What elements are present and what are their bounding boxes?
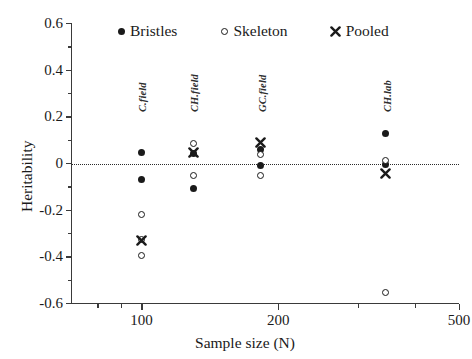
data-point-filled-circle — [138, 176, 145, 183]
x-tick-label: 100 — [111, 313, 171, 328]
y-minor-tick-mark — [68, 93, 71, 94]
x-axis-line — [71, 303, 459, 304]
x-minor-tick-mark — [415, 304, 416, 308]
data-point-filled-circle — [382, 130, 389, 137]
y-tick-mark — [66, 163, 71, 164]
x-minor-tick-mark — [97, 304, 98, 308]
group-annotation-label: GC.field — [257, 75, 268, 112]
y-tick-mark — [66, 116, 71, 117]
y-tick-label: 0.2 — [5, 109, 63, 124]
chart-legend: Bristles Skeleton Pooled — [118, 22, 389, 40]
x-tick-mark — [141, 304, 142, 310]
legend-label-pooled: Pooled — [346, 22, 389, 40]
legend-label-skeleton: Skeleton — [233, 22, 287, 40]
y-minor-tick-mark — [68, 280, 71, 281]
data-point-filled-circle — [257, 162, 264, 169]
data-point-cross-x — [255, 137, 266, 148]
y-tick-mark — [66, 23, 71, 24]
data-point-open-circle — [257, 172, 264, 179]
x-axis-title: Sample size (N) — [165, 334, 325, 352]
scatter-plot-figure: Heritability Sample size (N) -0.6-0.4-0.… — [0, 0, 472, 359]
legend-item-pooled: Pooled — [330, 22, 389, 40]
x-tick-label: 200 — [248, 313, 308, 328]
x-tick-mark — [278, 304, 279, 310]
y-tick-label: 0.6 — [5, 16, 63, 31]
y-tick-mark — [66, 210, 71, 211]
x-minor-tick-mark — [358, 304, 359, 308]
open-circle-icon — [221, 28, 228, 35]
cross-x-icon — [330, 26, 341, 37]
y-minor-tick-mark — [68, 140, 71, 141]
data-point-open-circle — [138, 252, 145, 259]
filled-circle-icon — [118, 28, 125, 35]
data-point-open-circle — [257, 151, 264, 158]
data-point-filled-circle — [138, 149, 145, 156]
legend-item-bristles: Bristles — [118, 22, 177, 40]
x-minor-tick-mark — [121, 304, 122, 308]
y-tick-label: -0.6 — [5, 296, 63, 311]
data-point-cross-x — [188, 147, 199, 158]
data-point-open-circle — [138, 211, 145, 218]
zero-reference-line — [72, 164, 459, 165]
y-tick-mark — [66, 303, 71, 304]
legend-item-skeleton: Skeleton — [221, 22, 287, 40]
data-point-open-circle — [382, 289, 389, 296]
y-tick-mark — [66, 70, 71, 71]
y-tick-label: 0.4 — [5, 63, 63, 78]
y-minor-tick-mark — [68, 46, 71, 47]
y-minor-tick-mark — [68, 186, 71, 187]
y-minor-tick-mark — [68, 233, 71, 234]
y-tick-label: 0 — [5, 156, 63, 171]
y-axis-title: Heritability — [18, 141, 36, 212]
y-tick-label: -0.2 — [5, 203, 63, 218]
y-tick-label: -0.4 — [5, 249, 63, 264]
data-point-filled-circle — [190, 185, 197, 192]
group-annotation-label: CH.lab — [382, 80, 393, 112]
data-point-open-circle — [190, 172, 197, 179]
x-tick-label: 500 — [429, 313, 472, 328]
data-point-cross-x — [380, 168, 391, 179]
legend-label-bristles: Bristles — [130, 22, 177, 40]
group-annotation-label: C.field — [137, 82, 148, 112]
x-tick-mark — [459, 304, 460, 310]
data-point-cross-x — [136, 235, 147, 246]
group-annotation-label: CH.field — [189, 74, 200, 112]
y-tick-mark — [66, 256, 71, 257]
